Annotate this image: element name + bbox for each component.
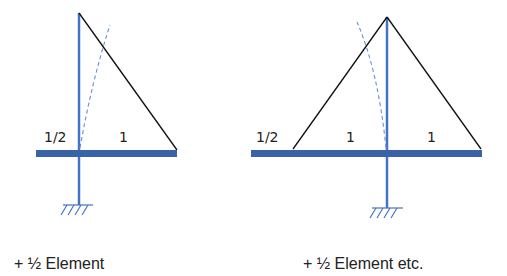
left-diagram: [36, 13, 177, 215]
deflection-curve: [80, 25, 110, 148]
right-diagram: [251, 17, 482, 218]
beam: [251, 150, 482, 157]
influence-line-left: [293, 17, 387, 149]
beam: [36, 150, 177, 157]
label-half: 1/2: [256, 129, 279, 145]
caption-left: + ½ Element: [14, 255, 104, 273]
label-one-right: 1: [427, 129, 436, 145]
label-one: 1: [119, 129, 128, 145]
fixed-support-icon: [370, 208, 403, 218]
label-one-middle: 1: [346, 129, 355, 145]
label-half: 1/2: [44, 129, 67, 145]
fixed-support-icon: [61, 205, 93, 215]
caption-right: + ½ Element etc.: [303, 255, 424, 273]
influence-line: [79, 13, 177, 150]
deflection-curve: [357, 22, 386, 148]
